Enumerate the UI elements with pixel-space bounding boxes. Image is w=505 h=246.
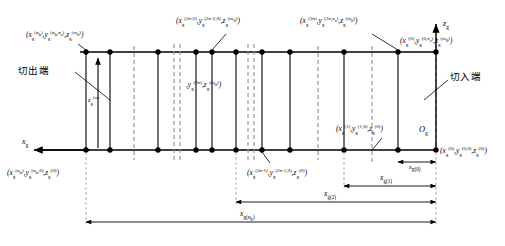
node-label-top-mid-right: (xg(2n),yg(2n,ns),zg(m0)): [300, 16, 357, 27]
diagram-canvas: (xg(nb),yg(nb,ns),zg(m0)) (xg(2n-2),yg(2…: [0, 0, 505, 246]
dimension-label-xgnb: xg(nb): [240, 210, 255, 222]
annotation-cut-in-end: 切入端: [450, 72, 481, 82]
node-label-bottom-mid: (xg(2n-1),yg(2n-1,0),zg(0)): [247, 168, 307, 179]
z-tick-label: zg(m): [88, 96, 99, 106]
node-label-top-right: (xg(0),yg(0,ns),zg(m0)): [400, 36, 452, 47]
break-mark-right: [248, 44, 254, 160]
node-label-origin: (xg(0),yg(0,0),zg(0)): [440, 146, 487, 157]
dashed-rung-group: [134, 30, 436, 162]
rung-group: [86, 52, 398, 150]
node-label-mid-left-small: ,yg(2n),zg(m0)): [186, 80, 221, 91]
node-label-bottom-right-inner: (xg(1),yg(1,0),zg(0)): [336, 124, 383, 135]
z-axis-label: zg: [443, 20, 449, 30]
origin-label: Og: [419, 126, 428, 136]
node-label-bottom-left: (xg(nb),yg(nb,0),zg(0)): [7, 168, 59, 179]
node-label-top-left: (xg(nb),yg(nb,ns),zg(m0)): [26, 30, 83, 41]
break-mark-left: [174, 44, 180, 160]
dimension-label-xg2: xg(2): [324, 190, 336, 200]
annotation-cut-out-end: 切出端: [18, 66, 49, 76]
x-axis-label: xg: [22, 138, 28, 148]
dimension-label-xg0: xg(0): [409, 164, 421, 172]
node-label-top-mid-left: (xg(2n-2),yg(2n-2,0),zg(m0)): [176, 16, 240, 27]
dimension-xgnb: [86, 152, 436, 224]
dimension-label-xg1: xg(1): [380, 174, 392, 184]
